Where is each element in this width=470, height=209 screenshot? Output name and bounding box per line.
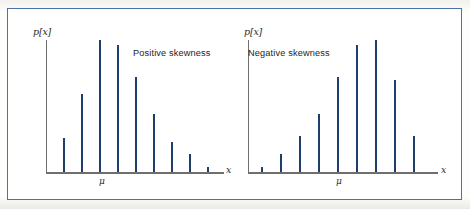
x-axis-line-right <box>248 172 438 174</box>
bar <box>207 167 209 172</box>
bar <box>413 136 415 172</box>
panel-caption-negative: Negative skewness <box>248 48 330 58</box>
bar <box>299 136 301 172</box>
bar <box>318 114 320 172</box>
mean-marker-label-right: μ <box>336 176 342 186</box>
figure-canvas: p[x] x μ Positive skewness p[x] x μ Nega… <box>0 0 470 209</box>
bar <box>375 40 377 172</box>
bar <box>171 142 173 172</box>
y-axis-label-right: p[x] <box>244 26 262 37</box>
chart-panel-positive-skewness: p[x] x μ Positive skewness <box>7 0 235 192</box>
bar <box>63 138 65 172</box>
bar <box>261 167 263 172</box>
bar <box>189 154 191 172</box>
bar <box>337 77 339 172</box>
bar <box>117 45 119 172</box>
panel-caption-positive: Positive skewness <box>133 48 211 58</box>
bar <box>153 114 155 172</box>
x-axis-line-left <box>46 172 224 174</box>
bar <box>356 45 358 172</box>
x-axis-label-left: x <box>226 164 231 175</box>
y-axis-line-left <box>46 40 47 173</box>
y-axis-line-right <box>248 40 249 173</box>
bar <box>394 80 396 172</box>
bar <box>135 77 137 172</box>
bar <box>99 40 101 172</box>
x-axis-label-right: x <box>441 164 446 175</box>
chart-panel-negative-skewness: p[x] x μ Negative skewness <box>235 0 463 192</box>
bar <box>280 154 282 172</box>
bar <box>81 94 83 172</box>
y-axis-label-left: p[x] <box>33 26 51 37</box>
mean-marker-label-left: μ <box>99 176 105 186</box>
